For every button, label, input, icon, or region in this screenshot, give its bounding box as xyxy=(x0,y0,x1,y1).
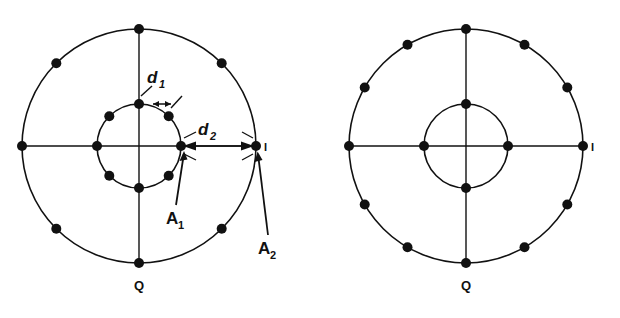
constellation-left: d 1 d 2 A 1 xyxy=(17,24,276,293)
constellation-point xyxy=(562,200,572,210)
d1-arrowhead-right xyxy=(165,101,171,107)
constellation-right: I Q xyxy=(344,24,594,293)
constellation-point xyxy=(134,183,144,193)
A2-annotation: A 2 xyxy=(255,152,277,262)
constellation-point xyxy=(51,58,61,68)
constellation-point xyxy=(461,183,471,193)
constellation-point xyxy=(461,99,471,109)
constellation-point xyxy=(164,111,174,121)
constellation-point xyxy=(17,141,27,151)
constellation-figure: d 1 d 2 A 1 xyxy=(0,0,620,318)
right-q-axis-label: Q xyxy=(461,278,471,293)
constellation-point xyxy=(461,24,471,34)
constellation-point xyxy=(92,141,102,151)
constellation-point xyxy=(104,111,114,121)
d2-tick-ul xyxy=(184,132,196,138)
constellation-point xyxy=(578,141,588,151)
constellation-point xyxy=(360,200,370,210)
d1-label: d xyxy=(147,68,158,87)
d2-label: d xyxy=(198,120,209,139)
A2-label-sub: 2 xyxy=(270,249,276,261)
d1-tick-left xyxy=(141,86,152,96)
constellation-point xyxy=(104,171,114,181)
constellation-point xyxy=(51,224,61,234)
A1-label-sub: 1 xyxy=(178,219,184,231)
d2-label-sub: 2 xyxy=(209,130,216,142)
left-i-axis-label: I xyxy=(264,141,267,153)
constellation-point xyxy=(520,242,530,252)
constellation-point xyxy=(134,99,144,109)
constellation-point xyxy=(461,258,471,268)
left-q-axis-label: Q xyxy=(134,278,144,293)
right-i-axis-label: I xyxy=(591,141,594,153)
d1-tick-right xyxy=(171,96,182,108)
d2-tick-dr xyxy=(242,154,253,160)
figure-canvas: d 1 d 2 A 1 xyxy=(0,0,620,318)
constellation-point xyxy=(520,40,530,50)
constellation-point xyxy=(217,58,227,68)
constellation-point xyxy=(164,171,174,181)
constellation-point xyxy=(360,83,370,93)
A2-leader-line xyxy=(258,154,268,235)
d2-tick-ur xyxy=(242,132,253,138)
constellation-point xyxy=(217,224,227,234)
A2-label: A xyxy=(258,239,270,258)
constellation-point xyxy=(403,40,413,50)
constellation-point xyxy=(134,258,144,268)
d1-annotation: d 1 xyxy=(141,68,182,108)
d2-arrowhead-right xyxy=(241,142,254,151)
constellation-point xyxy=(134,24,144,34)
constellation-point xyxy=(403,242,413,252)
d2-arrowhead-left xyxy=(183,142,196,151)
constellation-point xyxy=(503,141,513,151)
constellation-point xyxy=(562,83,572,93)
A1-label: A xyxy=(166,209,178,228)
constellation-point xyxy=(344,141,354,151)
constellation-point xyxy=(419,141,429,151)
d2-annotation: d 2 xyxy=(183,120,254,160)
d1-label-sub: 1 xyxy=(159,78,165,90)
